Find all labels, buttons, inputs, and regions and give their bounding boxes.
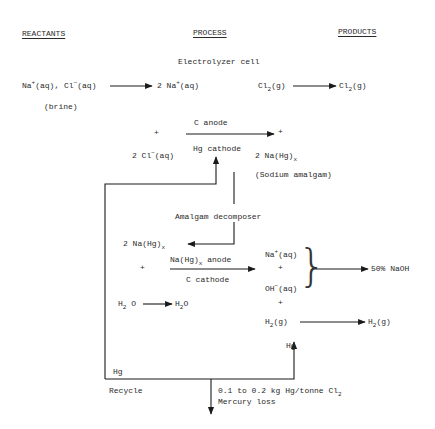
naoh-product: 50% NaOH (371, 264, 409, 274)
header-reactants: REACTANTS (22, 29, 65, 39)
c-cathode-label: C cathode (186, 275, 229, 285)
mercury-loss-label: Mercury loss (218, 397, 276, 407)
chlorine-product: Cl2(g) (339, 81, 367, 91)
brine-label: (brine) (44, 102, 78, 112)
sodium-amalgam: 2 Na(Hg)x (255, 151, 297, 161)
water-reactant: H2 O (118, 299, 136, 309)
hg-return-line (105, 342, 294, 379)
plus-sign: + (154, 128, 159, 138)
c-anode-label: C anode (194, 118, 228, 128)
water-intermediate: H2O (175, 299, 188, 309)
amalgam-anode-label: Na(Hg)x anode (170, 255, 231, 265)
hydrogen-product: H2(g) (368, 317, 391, 327)
chlorine-gas: Cl2(g) (258, 81, 286, 91)
header-process: PROCESS (193, 28, 227, 38)
decomposer-title: Amalgam decomposer (175, 212, 261, 222)
sodium-amalgam-label: (Sodium amalgam) (255, 170, 332, 180)
plus-sign: + (140, 263, 145, 273)
sodium-ion: Na+(aq) (265, 250, 297, 260)
brine-reactant: Na+(aq), Cl−(aq) (22, 81, 96, 91)
sodium-ion: 2 Na+(aq) (157, 81, 199, 91)
recycle-label: Recycle (109, 386, 143, 396)
mercury-loss-amount: 0.1 to 0.2 kg Hg/tonne Cl2 (218, 386, 342, 396)
plus-sign: + (278, 298, 283, 308)
brace: } (298, 244, 326, 288)
hg-cathode-label: Hg cathode (193, 144, 241, 154)
hydrogen-gas: H2(g) (265, 317, 288, 327)
header-products: PRODUCTS (338, 27, 376, 37)
recycle-line (105, 157, 216, 379)
amalgam-line-to-decomposer (188, 222, 234, 244)
hg-recycle-label: Hg (113, 367, 123, 377)
chloride-ion: 2 Cl−(aq) (132, 151, 174, 161)
electrolyzer-title: Electrolyzer cell (178, 57, 260, 67)
hydroxide-ion: OH−(aq) (265, 284, 297, 294)
plus-sign: + (278, 127, 283, 137)
plus-sign: + (278, 263, 283, 273)
hg-output: Hg (286, 341, 296, 351)
decomposer-amalgam: 2 Na(Hg)x (123, 239, 165, 249)
